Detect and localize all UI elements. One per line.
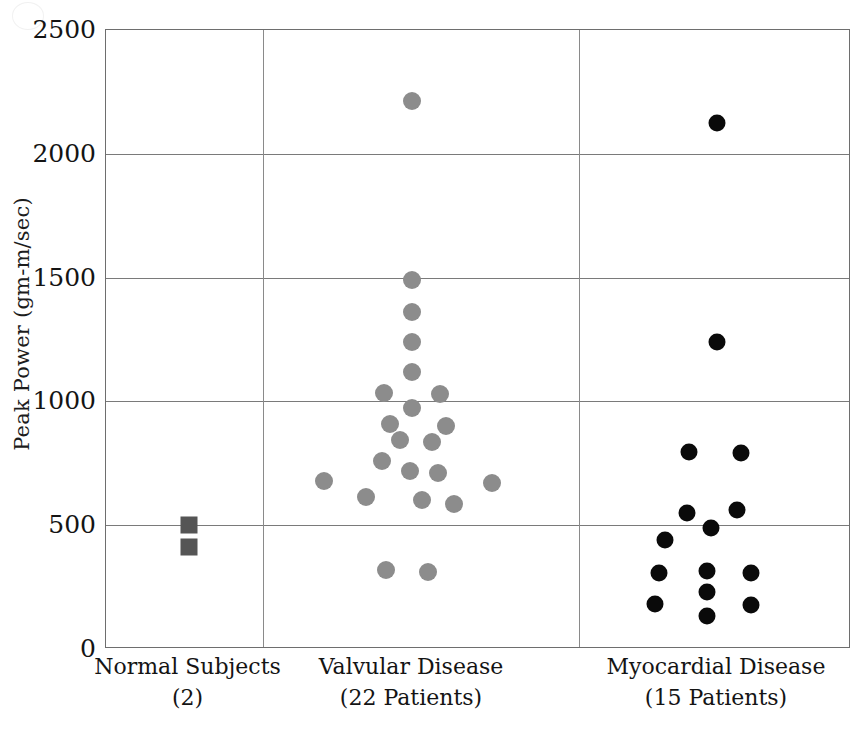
data-point	[413, 491, 431, 509]
data-point	[651, 565, 668, 582]
x-category-count: (22 Patients)	[319, 682, 504, 714]
data-point	[180, 539, 197, 556]
data-point	[403, 333, 421, 351]
y-tick-label-500: 500	[0, 510, 96, 539]
data-point	[315, 472, 333, 490]
data-point	[681, 444, 698, 461]
data-point	[403, 271, 421, 289]
gridline-1000	[106, 401, 849, 402]
data-point	[373, 452, 391, 470]
data-point	[419, 563, 437, 581]
gridline-2000	[106, 154, 849, 155]
x-category-label-3: Myocardial Disease(15 Patients)	[607, 652, 826, 714]
y-axis-title: Peak Power (gm-m/sec)	[0, 0, 44, 648]
chart-page: Peak Power (gm-m/sec) 050010001500200025…	[0, 0, 864, 731]
gridline-1500	[106, 278, 849, 279]
data-point	[403, 92, 421, 110]
x-axis-category-labels: Normal Subjects(2)Valvular Disease(22 Pa…	[105, 652, 850, 728]
data-point	[709, 333, 726, 350]
data-point	[391, 431, 409, 449]
data-point	[403, 399, 421, 417]
data-point	[729, 502, 746, 519]
data-point	[403, 363, 421, 381]
x-category-name: Valvular Disease	[319, 652, 504, 682]
data-point	[431, 385, 449, 403]
data-point	[429, 464, 447, 482]
y-tick-label-1500: 1500	[0, 262, 96, 291]
data-point	[709, 114, 726, 131]
data-point	[180, 517, 197, 534]
data-point	[699, 563, 716, 580]
x-category-name: Normal Subjects	[94, 652, 281, 682]
data-point	[403, 303, 421, 321]
data-point	[647, 596, 664, 613]
data-point	[423, 433, 441, 451]
data-point	[699, 607, 716, 624]
data-point	[743, 565, 760, 582]
category-divider-1	[263, 30, 264, 647]
data-point	[375, 384, 393, 402]
data-point	[445, 495, 463, 513]
scan-artifact	[12, 2, 44, 30]
data-point	[733, 445, 750, 462]
plot-area	[105, 29, 850, 648]
x-category-count: (15 Patients)	[607, 682, 826, 714]
data-point	[679, 504, 696, 521]
x-category-label-2: Valvular Disease(22 Patients)	[319, 652, 504, 714]
data-point	[699, 584, 716, 601]
data-point	[437, 417, 455, 435]
gridline-500	[106, 525, 849, 526]
data-point	[657, 532, 674, 549]
data-point	[377, 561, 395, 579]
data-point	[743, 596, 760, 613]
data-point	[401, 462, 419, 480]
data-point	[357, 488, 375, 506]
data-point	[381, 415, 399, 433]
y-axis-title-text: Peak Power (gm-m/sec)	[10, 197, 34, 451]
y-tick-label-1000: 1000	[0, 386, 96, 415]
x-category-count: (2)	[94, 682, 281, 714]
y-tick-label-2000: 2000	[0, 138, 96, 167]
category-divider-2	[579, 30, 580, 647]
x-category-label-1: Normal Subjects(2)	[94, 652, 281, 714]
y-tick-label-0: 0	[0, 634, 96, 663]
x-category-name: Myocardial Disease	[607, 652, 826, 682]
data-point	[483, 474, 501, 492]
data-point	[703, 519, 720, 536]
